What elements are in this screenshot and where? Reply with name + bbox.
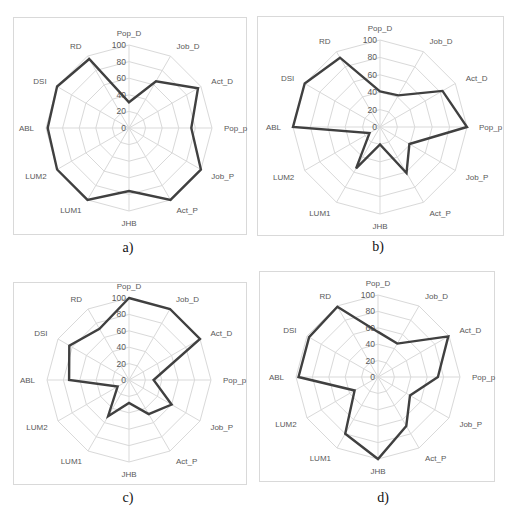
axis-label: Act_P — [176, 457, 197, 466]
radial-tick-label: 60 — [117, 73, 127, 83]
axis-label: LUM1 — [61, 457, 83, 466]
axis-label: Pop_p — [479, 123, 503, 132]
radar-panel-b: 020406080100Pop_DJob_DAct_DPop_pJob_PAct… — [257, 16, 504, 236]
radial-tick-label: 80 — [366, 306, 376, 316]
axis-label: JHB — [121, 219, 136, 228]
caption-b: b) — [358, 239, 398, 255]
axis-label: ABL — [266, 123, 282, 132]
axis-label: Pop_p — [224, 124, 248, 133]
axis-label: LUM2 — [273, 173, 295, 182]
caption-d: d) — [363, 490, 403, 506]
axis-label: Act_D — [466, 74, 488, 83]
axis-label: Job_D — [430, 37, 453, 46]
axis-label: Pop_p — [472, 373, 496, 382]
axis-label: DSI — [281, 74, 294, 83]
radial-tick-label: 80 — [368, 52, 378, 62]
radar-svg: 020406080100Pop_DJob_DAct_DPop_pJob_PAct… — [260, 272, 496, 483]
radar-svg: 020406080100Pop_DJob_DAct_DPop_pJob_PAct… — [258, 17, 505, 237]
axis-label: ABL — [19, 124, 35, 133]
axis-label: RD — [70, 42, 82, 51]
axis-label: Job_D — [177, 42, 200, 51]
axis-label: RD — [319, 37, 331, 46]
radial-tick-label: 100 — [361, 290, 375, 300]
radial-tick-label: 0 — [372, 122, 377, 132]
radial-tick-label: 0 — [121, 123, 126, 133]
axis-label: Job_D — [176, 295, 199, 304]
radial-tick-label: 20 — [117, 106, 127, 116]
axis-label: ABL — [20, 376, 36, 385]
axis-label: Pop_D — [366, 279, 391, 288]
caption-a: a) — [108, 240, 148, 256]
axis-label: Job_P — [211, 172, 234, 181]
caption-c: c) — [108, 490, 148, 506]
axis-label: DSI — [283, 326, 296, 335]
radar-panel-a: 020406080100Pop_DJob_DAct_DPop_pJob_PAct… — [13, 17, 247, 235]
axis-label: RD — [70, 295, 82, 304]
axis-label: Pop_D — [117, 29, 142, 38]
radial-tick-label: 20 — [366, 356, 376, 366]
axis-label: Job_D — [425, 292, 448, 301]
axis-label: DSI — [34, 329, 47, 338]
axis-label: Pop_D — [117, 283, 142, 291]
axis-label: JHB — [372, 222, 387, 231]
axis-label: Job_P — [210, 423, 233, 432]
axis-label: LUM1 — [309, 209, 331, 218]
axis-label: Act_D — [211, 77, 233, 86]
axis-label: Act_P — [430, 209, 451, 218]
axis-label: LUM1 — [60, 206, 82, 215]
axis-label: LUM2 — [25, 172, 47, 181]
radial-tick-label: 0 — [121, 375, 126, 385]
axis-label: Act_P — [177, 206, 198, 215]
radial-tick-label: 0 — [370, 372, 375, 382]
axis-label: LUM1 — [310, 454, 332, 463]
axis-label: DSI — [33, 77, 46, 86]
axis-label: LUM2 — [275, 420, 297, 429]
axis-label: LUM2 — [26, 423, 48, 432]
axis-label: Pop_D — [368, 24, 393, 33]
radial-tick-label: 80 — [117, 57, 127, 67]
radial-tick-label: 40 — [366, 339, 376, 349]
axis-label: Act_D — [210, 329, 232, 338]
radial-tick-label: 40 — [117, 342, 127, 352]
axis-label: Pop_p — [223, 376, 247, 385]
radar-panel-c: 020406080100Pop_DJob_DAct_DPop_pJob_PAct… — [13, 282, 247, 485]
radar-panel-d: 020406080100Pop_DJob_DAct_DPop_pJob_PAct… — [259, 271, 495, 482]
axis-label: Act_D — [459, 326, 481, 335]
radial-tick-label: 20 — [368, 105, 378, 115]
radial-tick-label: 20 — [117, 359, 127, 369]
radar-svg: 020406080100Pop_DJob_DAct_DPop_pJob_PAct… — [14, 283, 248, 486]
radial-tick-label: 60 — [368, 70, 378, 80]
axis-label: ABL — [269, 373, 285, 382]
radial-tick-label: 100 — [112, 40, 126, 50]
radial-tick-label: 60 — [117, 326, 127, 336]
axis-label: JHB — [121, 470, 136, 479]
radial-tick-label: 100 — [363, 35, 377, 45]
axis-label: JHB — [370, 467, 385, 476]
axis-label: Job_P — [466, 173, 489, 182]
axis-label: Job_P — [459, 420, 482, 429]
axis-label: Act_P — [425, 454, 446, 463]
axis-label: RD — [319, 292, 331, 301]
radar-svg: 020406080100Pop_DJob_DAct_DPop_pJob_PAct… — [14, 18, 248, 236]
